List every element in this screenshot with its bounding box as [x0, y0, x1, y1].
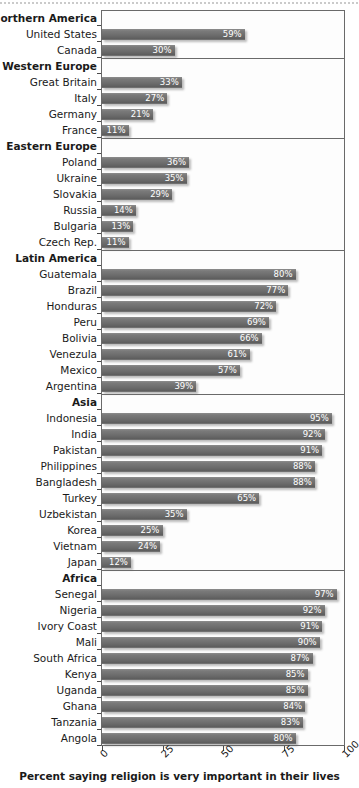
chart-bar-row: Ukraine35%	[0, 170, 359, 186]
group-label: Africa	[62, 570, 97, 586]
category-label: Venezula	[50, 346, 97, 362]
bar-value-label: 29%	[150, 189, 169, 200]
bar	[102, 493, 259, 504]
bar-value-label: 61%	[228, 349, 247, 360]
bar-value-label: 85%	[286, 669, 305, 680]
bar	[102, 333, 262, 344]
category-label: Czech Rep.	[39, 234, 97, 250]
category-label: Slovakia	[53, 186, 97, 202]
chart-bar-row: Ivory Coast91%	[0, 618, 359, 634]
bar-value-label: 36%	[167, 157, 186, 168]
chart-bar-row: Tanzania83%	[0, 714, 359, 730]
category-label: Senegal	[55, 586, 97, 602]
group-label: Latin America	[15, 250, 97, 266]
bar-value-label: 39%	[174, 381, 193, 392]
bar-value-label: 92%	[303, 605, 322, 616]
chart-bar-row: Uganda85%	[0, 682, 359, 698]
bar	[102, 653, 313, 664]
chart-bar-row: Kenya85%	[0, 666, 359, 682]
category-label: Philippines	[40, 458, 97, 474]
bar	[102, 317, 269, 328]
category-label: Nigeria	[59, 602, 97, 618]
chart-bar-row: Nigeria92%	[0, 602, 359, 618]
category-label: Bangladesh	[35, 474, 97, 490]
bar-value-label: 85%	[286, 685, 305, 696]
chart-bar-row: India92%	[0, 426, 359, 442]
category-label: Uganda	[56, 682, 97, 698]
category-label: Angola	[61, 730, 97, 746]
chart-bar-row: Russia14%	[0, 202, 359, 218]
bar-value-label: 11%	[107, 125, 126, 136]
category-label: Turkey	[63, 490, 97, 506]
category-label: France	[62, 122, 97, 138]
group-divider-line	[101, 250, 345, 251]
bar-value-label: 80%	[274, 733, 293, 744]
category-label: Ukraine	[56, 170, 97, 186]
chart-bar-row: Uzbekistan35%	[0, 506, 359, 522]
category-label: Ivory Coast	[38, 618, 97, 634]
bar	[102, 637, 320, 648]
bar-value-label: 11%	[107, 237, 126, 248]
chart-bar-row: Honduras72%	[0, 298, 359, 314]
category-label: Mexico	[60, 362, 97, 378]
bar-value-label: 27%	[145, 93, 164, 104]
category-label: Honduras	[46, 298, 97, 314]
category-label: Great Britain	[30, 74, 97, 90]
bar-value-label: 59%	[223, 29, 242, 40]
bar-value-label: 80%	[274, 269, 293, 280]
category-label: Argentina	[46, 378, 97, 394]
bar-value-label: 33%	[160, 77, 179, 88]
category-label: Korea	[67, 522, 97, 538]
category-label: Russia	[63, 202, 97, 218]
bar	[102, 301, 276, 312]
bar	[102, 445, 322, 456]
bar-value-label: 95%	[310, 413, 329, 424]
chart-bar-row: South Africa87%	[0, 650, 359, 666]
category-label: Tanzania	[51, 714, 97, 730]
bar	[102, 605, 325, 616]
x-axis-tick-marks	[0, 746, 359, 752]
chart-bar-row: Indonesia95%	[0, 410, 359, 426]
bar-value-label: 13%	[111, 221, 130, 232]
bar-value-label: 72%	[254, 301, 273, 312]
bar	[102, 733, 296, 744]
bar	[102, 701, 305, 712]
bar-value-label: 12%	[109, 557, 128, 568]
group-header-row: Western Europe	[0, 58, 359, 74]
category-label: South Africa	[33, 650, 97, 666]
chart-bar-row: Turkey65%	[0, 490, 359, 506]
chart-bar-row: Italy27%	[0, 90, 359, 106]
chart-bar-row: Senegal97%	[0, 586, 359, 602]
group-divider-line	[101, 570, 345, 571]
chart-bar-row: France11%	[0, 122, 359, 138]
category-label: Poland	[62, 154, 97, 170]
chart-bar-row: Mali90%	[0, 634, 359, 650]
bar-value-label: 84%	[283, 701, 302, 712]
bar-value-label: 66%	[240, 333, 259, 344]
bar-value-label: 83%	[281, 717, 300, 728]
bar-value-label: 24%	[138, 541, 157, 552]
category-label: Indonesia	[46, 410, 97, 426]
bar	[102, 461, 315, 472]
bar-value-label: 77%	[266, 285, 285, 296]
chart-bar-row: Bangladesh88%	[0, 474, 359, 490]
bar-value-label: 35%	[165, 173, 184, 184]
chart-bar-row: Germany21%	[0, 106, 359, 122]
bar-value-label: 97%	[315, 589, 334, 600]
bar-value-label: 88%	[293, 461, 312, 472]
bar	[102, 429, 325, 440]
bar-value-label: 21%	[131, 109, 150, 120]
category-label: Brazil	[68, 282, 97, 298]
chart-bar-row: United States59%	[0, 26, 359, 42]
chart-bar-row: Poland36%	[0, 154, 359, 170]
bar-value-label: 57%	[218, 365, 237, 376]
chart-bar-row: Vietnam24%	[0, 538, 359, 554]
bar-value-label: 25%	[141, 525, 160, 536]
bar	[102, 589, 337, 600]
group-label: Asia	[72, 394, 97, 410]
group-divider-line	[101, 138, 345, 139]
bar	[102, 669, 308, 680]
bar-value-label: 14%	[114, 205, 133, 216]
scan-artifact-line	[0, 2, 359, 4]
category-label: Guatemala	[39, 266, 97, 282]
